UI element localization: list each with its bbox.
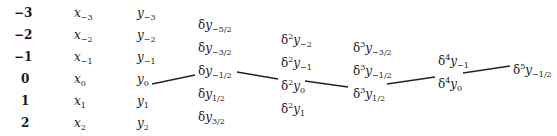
y-value: y−1: [137, 50, 156, 69]
second-difference: δ2y−2: [281, 30, 312, 52]
first-difference: δy−3/2: [198, 41, 232, 60]
third-difference: δ3y1/2: [353, 84, 385, 106]
x-value: x−1: [74, 50, 93, 69]
path-segment-2: [237, 72, 278, 79]
first-difference: δy3/2: [198, 110, 225, 129]
row-index: −2: [14, 28, 32, 42]
second-difference: δ2y0: [281, 76, 305, 98]
y-value: y0: [137, 72, 149, 91]
x-value: x2: [74, 116, 86, 135]
second-difference: δ2y−1: [281, 53, 312, 75]
path-segment-1: [152, 75, 195, 84]
y-value: y2: [137, 116, 149, 135]
fourth-difference: δ4y−1: [438, 51, 469, 73]
y-value: y−3: [137, 6, 156, 25]
row-index: 2: [21, 116, 29, 130]
second-difference: δ2y1: [281, 99, 305, 121]
row-index: 1: [21, 94, 29, 108]
fifth-difference: δ5y−1/2: [513, 60, 552, 82]
x-value: x0: [74, 72, 86, 91]
third-difference: δ3y−3/2: [353, 38, 392, 60]
y-value: y−2: [137, 28, 156, 47]
x-value: x1: [74, 94, 86, 113]
row-index: −3: [14, 6, 32, 20]
row-index: 0: [21, 72, 29, 86]
path-segment-5: [463, 66, 510, 73]
y-value: y1: [137, 94, 149, 113]
first-difference: δy−1/2: [198, 64, 232, 83]
path-segment-3: [305, 81, 348, 87]
path-segment-4: [387, 77, 435, 84]
first-difference: δy1/2: [198, 87, 225, 106]
x-value: x−3: [74, 6, 93, 25]
x-value: x−2: [74, 28, 93, 47]
first-difference: δy−5/2: [198, 18, 232, 37]
fourth-difference: δ4y0: [438, 74, 462, 96]
third-difference: δ3y−1/2: [353, 61, 392, 83]
row-index: −1: [14, 50, 32, 64]
